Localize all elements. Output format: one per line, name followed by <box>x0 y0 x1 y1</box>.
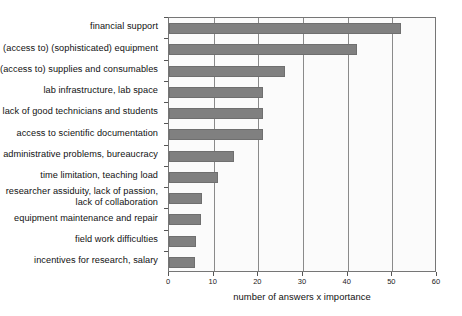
x-axis-title: number of answers x importance <box>168 291 436 302</box>
x-tick-mark <box>168 272 169 276</box>
x-tick-label: 60 <box>432 277 440 286</box>
x-tick-mark <box>347 272 348 276</box>
category-label: (access to) (sophisticated) equipment <box>3 43 158 54</box>
bar <box>169 87 263 98</box>
bar <box>169 257 195 268</box>
x-tick-label: 50 <box>387 277 395 286</box>
y-tick-mark <box>164 60 168 61</box>
x-tick-mark <box>302 272 303 276</box>
y-tick-mark <box>164 208 168 209</box>
category-label: incentives for research, salary <box>34 255 158 266</box>
bar <box>169 214 201 225</box>
bar <box>169 108 263 119</box>
category-label: researcher assiduity, lack of passion, l… <box>6 186 158 207</box>
y-tick-mark <box>164 230 168 231</box>
bar <box>169 66 285 77</box>
bar-chart: financial support(access to) (sophistica… <box>0 0 462 316</box>
x-tick-label: 20 <box>253 277 261 286</box>
x-tick-label: 30 <box>298 277 306 286</box>
bar <box>169 236 196 247</box>
bar <box>169 23 401 34</box>
category-label: field work difficulties <box>75 234 158 245</box>
category-label: lack of good technicians and students <box>3 106 158 117</box>
category-label: lab infrastructure, lab space <box>43 85 158 96</box>
category-label: financial support <box>90 21 158 32</box>
y-tick-mark <box>164 166 168 167</box>
y-tick-mark <box>164 145 168 146</box>
y-tick-mark <box>164 251 168 252</box>
y-tick-mark <box>164 81 168 82</box>
bar <box>169 193 202 204</box>
bar <box>169 129 263 140</box>
category-label: time limitation, teaching load <box>40 170 158 181</box>
plot-area <box>168 17 436 272</box>
y-tick-mark <box>164 187 168 188</box>
gridline <box>348 18 349 271</box>
bar <box>169 151 234 162</box>
y-tick-mark <box>164 123 168 124</box>
x-tick-mark <box>436 272 437 276</box>
category-label: equipment maintenance and repair <box>14 213 158 224</box>
x-tick-mark <box>391 272 392 276</box>
x-tick-label: 10 <box>208 277 216 286</box>
y-tick-mark <box>164 17 168 18</box>
category-label: access to scientific documentation <box>17 128 158 139</box>
x-tick-mark <box>257 272 258 276</box>
y-tick-mark <box>164 38 168 39</box>
x-tick-mark <box>213 272 214 276</box>
y-tick-mark <box>164 102 168 103</box>
category-label: (access to) supplies and consumables <box>0 64 158 75</box>
category-label: administrative problems, bureaucracy <box>3 149 158 160</box>
x-tick-label: 0 <box>166 277 170 286</box>
bar <box>169 172 218 183</box>
gridline <box>392 18 393 271</box>
gridline <box>258 18 259 271</box>
bar <box>169 44 357 55</box>
category-labels: financial support(access to) (sophistica… <box>0 17 164 272</box>
gridline <box>303 18 304 271</box>
x-tick-label: 40 <box>342 277 350 286</box>
gridline <box>214 18 215 271</box>
